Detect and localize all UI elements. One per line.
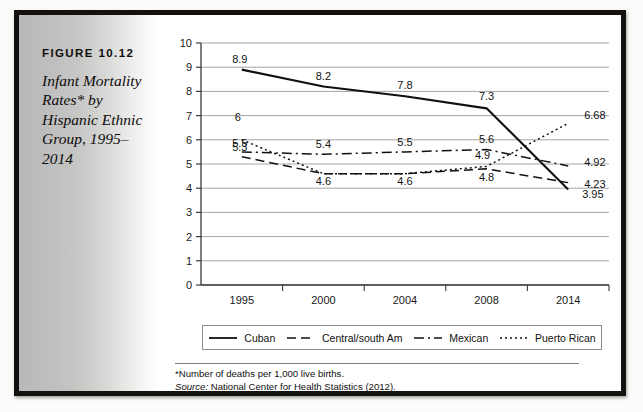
x-axis-tick-label: 2000: [311, 294, 335, 306]
y-axis-tick-label: 3: [186, 206, 192, 218]
chart-svg: 012345678910 19952000200420082014 8.98.2…: [167, 33, 619, 323]
series-line: [242, 123, 568, 173]
figure-number-label: FIGURE 10.12: [42, 47, 134, 59]
data-point-label: 6.68: [584, 109, 605, 121]
y-axis-tick-label: 7: [186, 110, 192, 122]
y-axis-tick-label: 6: [186, 134, 192, 146]
y-axis-tick-label: 1: [186, 255, 192, 267]
legend-swatch-dash-dot: [413, 333, 443, 343]
footnote-definition: *Number of deaths per 1,000 live births.: [175, 368, 605, 381]
data-point-label: 7.3: [479, 90, 494, 102]
x-axis-tick-label: 1995: [230, 294, 254, 306]
x-axis-tick-label: 2008: [474, 294, 498, 306]
x-axis-tick-label: 2004: [393, 294, 417, 306]
line-chart: 012345678910 19952000200420082014 8.98.2…: [167, 33, 619, 323]
footnote-source: Source: National Center for Health Stati…: [175, 381, 605, 394]
y-axis-tick-label: 8: [186, 85, 192, 97]
chart-legend: CubanCentral/south AmMexicanPuerto Rican: [202, 325, 602, 350]
y-axis-tick-label: 5: [186, 158, 192, 170]
y-axis-tick-label: 4: [186, 182, 192, 194]
legend-item-cuban: Cuban: [206, 332, 277, 344]
data-point-label: 4.23: [584, 178, 605, 190]
footnote-block: *Number of deaths per 1,000 live births.…: [175, 368, 605, 393]
y-axis-tick-label: 9: [186, 61, 192, 73]
legend-item-puerto-rican: Puerto Rican: [497, 332, 598, 344]
figure-frame: FIGURE 10.12 Infant Mortality Rates* by …: [14, 10, 626, 396]
legend-item-central-south-am: Central/south Am: [284, 332, 405, 344]
footnote-source-word: Source:: [175, 381, 208, 392]
footnote-divider: [175, 363, 579, 364]
legend-label: Puerto Rican: [535, 332, 596, 344]
data-point-label: 8.2: [316, 70, 331, 82]
data-point-label: 4.9: [475, 149, 490, 161]
data-point-label: 7.8: [397, 79, 412, 91]
data-point-label: 4.8: [479, 171, 494, 183]
y-axis-tick-label: 0: [186, 279, 192, 291]
data-point-label: 3.95: [582, 188, 603, 200]
x-axis: 19952000200420082014: [201, 285, 609, 306]
data-point-label: 5.6: [479, 133, 494, 145]
footnote-source-text: National Center for Health Statistics (2…: [208, 381, 396, 392]
legend-item-mexican: Mexican: [411, 332, 490, 344]
y-axis: 012345678910: [180, 37, 201, 291]
figure-root: FIGURE 10.12 Infant Mortality Rates* by …: [0, 0, 643, 412]
legend-label: Central/south Am: [322, 332, 403, 344]
data-point-label: 5.4: [316, 138, 331, 150]
data-point-label: 5.5: [397, 136, 412, 148]
series-line: [242, 149, 568, 165]
legend-swatch-dotted: [499, 333, 529, 343]
legend-label: Cuban: [244, 332, 275, 344]
series-value-labels: 8.98.27.87.33.955.34.64.64.84.235.55.45.…: [232, 53, 605, 201]
title-panel: FIGURE 10.12 Infant Mortality Rates* by …: [19, 15, 159, 391]
data-point-label: 5.5: [232, 137, 247, 149]
x-axis-tick-label: 2014: [556, 294, 580, 306]
data-point-label: 4.92: [584, 156, 605, 168]
figure-caption: Infant Mortality Rates* by Hispanic Ethn…: [42, 71, 148, 168]
data-point-label: 4.6: [316, 175, 331, 187]
data-point-label: 8.9: [232, 53, 247, 65]
data-point-label: 4.6: [397, 175, 412, 187]
legend-swatch-solid: [208, 333, 238, 343]
legend-label: Mexican: [449, 332, 488, 344]
figure-inner: FIGURE 10.12 Infant Mortality Rates* by …: [19, 15, 621, 391]
data-point-label: 6: [235, 111, 241, 123]
y-axis-tick-label: 10: [180, 37, 192, 49]
y-axis-tick-label: 2: [186, 231, 192, 243]
legend-swatch-dashed: [286, 333, 316, 343]
